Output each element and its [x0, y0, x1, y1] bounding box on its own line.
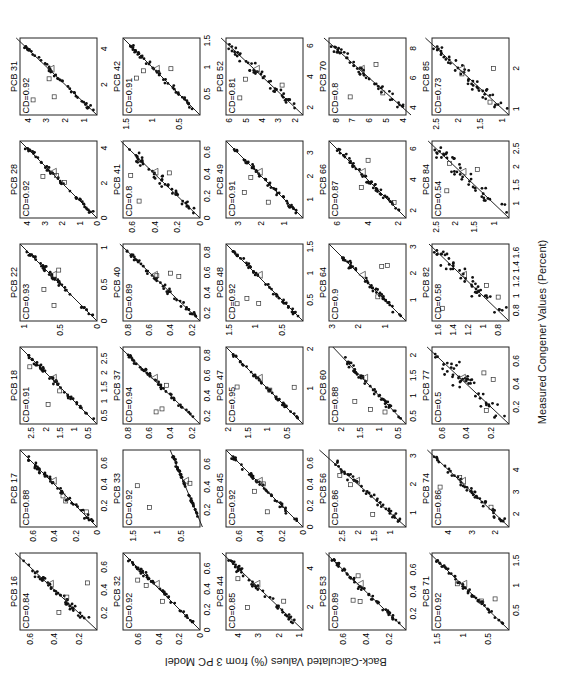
cd-value: CD=0.94: [124, 387, 134, 423]
svg-text:1: 1: [250, 324, 260, 329]
cd-value: CD=0.92: [433, 593, 443, 629]
svg-text:4: 4: [257, 118, 267, 123]
scatter-panel: CD=0.91PCB 49123123: [226, 141, 307, 218]
scatter-panel: CD=0.92PCB 710.511.50.511.5: [432, 553, 513, 630]
panel-title: PCB 49: [215, 164, 225, 195]
svg-text:0.6: 0.6: [25, 633, 35, 645]
svg-text:1: 1: [294, 633, 304, 638]
svg-text:3: 3: [327, 324, 337, 329]
svg-text:0: 0: [298, 530, 308, 535]
cd-value: CD=0.92: [21, 181, 31, 217]
svg-text:1.5: 1.5: [475, 118, 485, 130]
cd-value: CD=0.58: [433, 284, 443, 320]
svg-text:1: 1: [511, 583, 521, 588]
svg-text:6: 6: [305, 43, 315, 48]
svg-text:1: 1: [408, 510, 418, 515]
panel-title: PCB 18: [9, 370, 19, 401]
svg-text:0.2: 0.2: [99, 499, 109, 511]
svg-text:1: 1: [79, 118, 89, 123]
svg-text:1.2: 1.2: [511, 275, 521, 287]
svg-text:0.6: 0.6: [144, 427, 154, 439]
panel-title: PCB 52: [215, 61, 225, 92]
svg-text:0: 0: [202, 627, 212, 632]
panel-title: PCB 33: [112, 473, 122, 504]
scatter-panel: CD=0.86PCB 5612311.522.5: [329, 450, 410, 527]
svg-text:0.2: 0.2: [187, 324, 197, 336]
scatter-panel: CD=0.93PCB 2200.5100.51: [20, 244, 101, 321]
svg-text:1.4: 1.4: [448, 324, 458, 336]
svg-text:0.4: 0.4: [165, 324, 175, 336]
scatter-panel: CD=0.87PCB 66246246: [329, 141, 410, 218]
scatter-panel: CD=0.92PCB 31241234: [20, 38, 101, 115]
panel-title: PCB 74: [421, 473, 431, 504]
svg-text:2.5: 2.5: [431, 221, 441, 233]
svg-text:2: 2: [274, 633, 284, 638]
cd-value: CD=0.81: [227, 78, 237, 114]
svg-text:0.6: 0.6: [144, 324, 154, 336]
svg-text:0.8: 0.8: [123, 427, 133, 439]
panel-title: PCB 48: [215, 267, 225, 298]
scatter-panel: CD=0.92PCB 480.511.50.511.5: [226, 244, 307, 321]
svg-text:2: 2: [305, 604, 315, 609]
svg-text:0.6: 0.6: [133, 633, 143, 645]
svg-text:1.5: 1.5: [432, 633, 442, 645]
svg-text:1.5: 1.5: [369, 530, 379, 542]
svg-text:1.5: 1.5: [469, 221, 479, 233]
svg-text:2: 2: [256, 221, 266, 226]
svg-text:2: 2: [511, 511, 521, 516]
svg-text:0.6: 0.6: [99, 457, 109, 469]
svg-text:0: 0: [99, 318, 109, 323]
svg-text:3: 3: [40, 221, 50, 226]
svg-text:1: 1: [511, 293, 521, 298]
svg-text:1.5: 1.5: [121, 118, 131, 130]
svg-text:1.5: 1.5: [305, 240, 315, 252]
svg-text:0.5: 0.5: [83, 427, 93, 439]
svg-text:0.6: 0.6: [28, 530, 38, 542]
svg-text:1.5: 1.5: [202, 34, 212, 46]
svg-text:0.2: 0.2: [202, 410, 212, 422]
svg-text:1.5: 1.5: [243, 427, 253, 439]
svg-text:3: 3: [511, 489, 521, 494]
svg-text:0.4: 0.4: [305, 478, 315, 490]
svg-text:0.2: 0.2: [174, 633, 184, 645]
svg-text:1.4: 1.4: [511, 261, 521, 273]
scatter-panel: CD=0.58PCB 820.811.21.41.60.811.21.41.6: [432, 244, 513, 321]
svg-text:3: 3: [233, 221, 243, 226]
svg-text:0.6: 0.6: [202, 562, 212, 574]
svg-text:1: 1: [152, 530, 162, 535]
svg-text:1.2: 1.2: [463, 324, 473, 336]
cd-value: CD=0.8: [330, 83, 340, 114]
svg-text:3: 3: [273, 118, 283, 123]
svg-text:0.2: 0.2: [305, 499, 315, 511]
cd-value: CD=0.73: [433, 78, 443, 114]
svg-text:2: 2: [408, 208, 418, 213]
svg-text:4: 4: [511, 467, 521, 472]
svg-text:0: 0: [202, 215, 212, 220]
cd-value: CD=0.9: [330, 289, 340, 320]
svg-text:1.5: 1.5: [128, 530, 138, 542]
svg-text:0.2: 0.2: [172, 221, 182, 233]
svg-text:2: 2: [336, 427, 346, 432]
svg-text:1.6: 1.6: [433, 324, 443, 336]
svg-text:0.8: 0.8: [511, 304, 521, 316]
svg-text:2: 2: [57, 221, 67, 226]
svg-text:1: 1: [380, 324, 390, 329]
panel-title: PCB 84: [421, 164, 431, 195]
svg-text:1.5: 1.5: [224, 324, 234, 336]
svg-text:0.4: 0.4: [511, 378, 521, 390]
svg-text:1: 1: [19, 324, 29, 329]
cd-value: CD=0.88: [330, 387, 340, 423]
svg-text:4: 4: [22, 221, 32, 226]
cd-value: CD=0.86: [433, 490, 443, 526]
svg-text:0.8: 0.8: [123, 324, 133, 336]
svg-text:6: 6: [408, 146, 418, 151]
svg-text:0: 0: [195, 221, 205, 226]
svg-text:0.8: 0.8: [493, 324, 503, 336]
svg-text:0.4: 0.4: [202, 389, 212, 401]
panel-title: PCB 60: [318, 370, 328, 401]
svg-text:3: 3: [408, 244, 418, 249]
svg-text:1.5: 1.5: [99, 381, 109, 393]
svg-text:1.5: 1.5: [408, 369, 418, 381]
figure-stage: Back-Calculated Values (%) from 3 PC Mod…: [0, 0, 565, 692]
scatter-panel: CD=0.54PCB 8411.522.511.522.5: [432, 141, 513, 218]
